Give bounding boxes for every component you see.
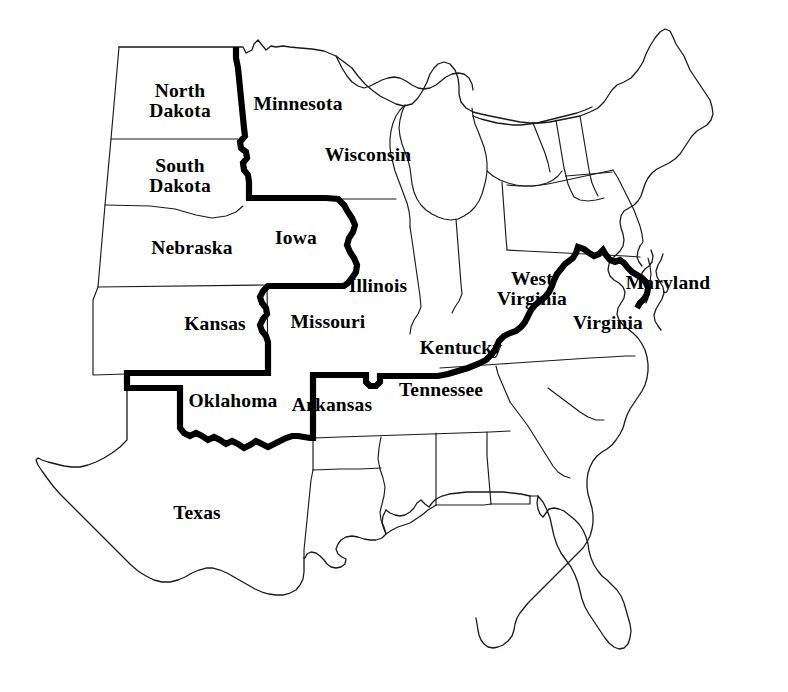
gulf-and-florida-coast: [304, 492, 631, 649]
great-lakes-shorelines: [336, 56, 592, 227]
map-figure: NorthDakotaMinnesotaSouthDakotaWisconsin…: [0, 0, 788, 692]
national-outline: [119, 29, 713, 648]
sectional-boundary-bold-line: [127, 47, 648, 448]
texas-outline: [36, 374, 304, 595]
us-outline-map: [0, 0, 788, 692]
state-boundaries: [93, 47, 651, 558]
